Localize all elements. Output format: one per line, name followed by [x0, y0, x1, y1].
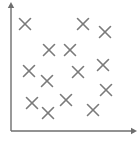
x-axis-arrowhead — [131, 128, 137, 134]
data-point-marker — [98, 60, 109, 71]
data-point-marker — [65, 45, 76, 56]
data-point-marker — [101, 85, 112, 96]
scatter-plot-canvas — [0, 0, 138, 142]
data-point-marker — [44, 45, 55, 56]
data-point-marker — [88, 105, 99, 116]
data-point-marker — [20, 19, 31, 30]
data-point-marker — [24, 66, 35, 77]
data-point-marker — [100, 27, 111, 38]
scatter-plot-figure — [0, 0, 138, 142]
data-point-marker — [42, 76, 53, 87]
data-point-marker — [78, 19, 89, 30]
data-point-marker — [61, 95, 72, 106]
data-point-marker — [43, 108, 54, 119]
y-axis-arrowhead — [8, 2, 14, 8]
data-point-marker — [27, 98, 38, 109]
data-points-group — [20, 19, 112, 119]
data-point-marker — [73, 67, 84, 78]
